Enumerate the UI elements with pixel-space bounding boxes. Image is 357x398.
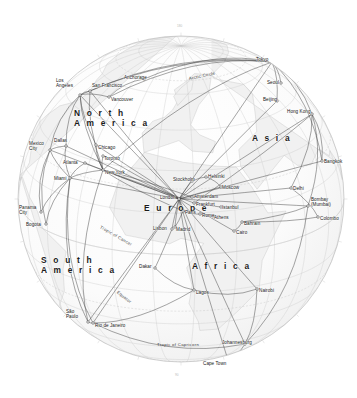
hub-marker-colombo [317, 216, 320, 219]
city-label-hong-kong: Hong Kong [287, 110, 311, 115]
city-label-dallas: Dallas [54, 139, 67, 144]
city-label-cape-town: Cape Town [203, 362, 226, 367]
city-label-line: Beijing [263, 98, 277, 103]
city-label-madrid: Madrid [176, 228, 190, 233]
continent-label-line: A m e r i c a [41, 265, 116, 275]
city-label-line: New York [105, 171, 125, 176]
hub-marker-vancouver [108, 96, 111, 99]
city-label-line: Amsterdam [194, 195, 218, 200]
city-label-stockholm: Stockholm [173, 178, 195, 183]
city-label-moscow: Moscow [222, 186, 239, 191]
hub-marker-cairo [233, 230, 236, 233]
city-label-line: Athens [214, 216, 229, 221]
city-label-line: Vancouver [111, 98, 133, 103]
hub-marker-panama-city [40, 211, 43, 214]
city-label-rome: Rome [202, 214, 215, 219]
city-label-line: Anchorage [124, 76, 147, 81]
hub-marker-nairobi [256, 288, 259, 291]
city-label-colombo: Colombo [320, 217, 339, 222]
continent-label-line: A m e r i c a [74, 118, 149, 128]
city-label-line: City [29, 147, 44, 152]
city-label-line: Bahrain [244, 222, 260, 227]
continent-label-south-america: S o u t hA m e r i c a [41, 255, 116, 275]
city-label-line: (Mumbai) [311, 203, 331, 208]
city-label-sao-paulo: SãoPaulo [66, 310, 78, 319]
city-label-line: Johannesburg [222, 341, 252, 346]
city-label-line: Cairo [236, 231, 247, 236]
city-label-line: Rome [202, 214, 215, 219]
city-label-line: Helsinki [208, 175, 225, 180]
city-label-nairobi: Nairobi [259, 289, 274, 294]
hub-marker-cape-town [227, 359, 230, 362]
hub-marker-rome [199, 213, 202, 216]
city-label-paris: Paris [185, 211, 196, 216]
city-label-johannesburg: Johannesburg [222, 341, 252, 346]
city-label-line: Dakar [139, 265, 152, 270]
hub-marker-chicago [95, 144, 98, 147]
city-label-line: Istanbul [222, 206, 239, 211]
continent-label-line: A f r i c a [192, 262, 251, 271]
city-label-delhi: Delhi [293, 187, 304, 192]
hub-marker-mexico-city [49, 149, 52, 152]
city-label-line: Toronto [104, 157, 120, 162]
city-label-line: Paris [185, 211, 196, 216]
city-label-line: Dallas [54, 139, 67, 144]
city-label-vancouver: Vancouver [111, 98, 133, 103]
city-label-line: Angeles [56, 84, 73, 89]
city-label-line: London [160, 196, 176, 201]
globe-graphic [0, 0, 357, 398]
city-label-bangkok: Bangkok [324, 160, 342, 165]
city-label-line: Seoul [267, 81, 279, 86]
city-label-bahrain: Bahrain [244, 222, 260, 227]
city-label-seoul: Seoul [267, 81, 279, 86]
globe-route-map: Arctic CircleTropic of CancerEquatorTrop… [0, 0, 357, 398]
city-label-line: Atlanta [63, 161, 78, 166]
city-label-atlanta: Atlanta [63, 161, 78, 166]
city-label-mexico-city: MexicoCity [29, 142, 44, 151]
city-label-line: Colombo [320, 217, 339, 222]
continent-label-africa: A f r i c a [192, 262, 251, 271]
city-label-line: Bogota [26, 223, 41, 228]
city-label-line: Frankfurt [196, 203, 215, 208]
hub-marker-rio-de-janeiro [92, 322, 95, 325]
hub-marker-san-francisco [89, 90, 92, 93]
city-label-line: Moscow [222, 186, 239, 191]
city-label-line: Stockholm [173, 178, 195, 183]
city-label-rio-de-janeiro: Rio de Janeiro [95, 324, 125, 329]
city-label-line: Bangkok [324, 160, 342, 165]
city-label-dakar: Dakar [139, 265, 152, 270]
hub-marker-helsinki [205, 176, 208, 179]
city-label-line: City [19, 211, 36, 216]
continent-label-line: S o u t h [41, 255, 116, 265]
city-label-line: Tokyo [256, 58, 268, 63]
city-label-amsterdam: Amsterdam [194, 195, 218, 200]
city-label-line: Nairobi [259, 289, 274, 294]
graticule-tick-label-180: 180 [177, 25, 182, 28]
hub-marker-london [178, 198, 181, 201]
city-label-anchorage: Anchorage [124, 76, 147, 81]
city-label-lagos: Lagos [196, 291, 209, 296]
hub-marker-lisbon [171, 228, 174, 231]
continent-label-asia: A s i a [252, 134, 292, 143]
city-label-line: Paulo [66, 315, 78, 320]
city-label-bombay-mumbai: Bombay(Mumbai) [311, 198, 331, 207]
continent-label-north-america: N o r t hA m e r i c a [74, 108, 149, 128]
city-label-cairo: Cairo [236, 231, 247, 236]
city-label-bogota: Bogota [26, 223, 41, 228]
city-label-london: London [160, 196, 176, 201]
hub-marker-dakar [154, 267, 157, 270]
city-label-helsinki: Helsinki [208, 175, 225, 180]
hub-marker-bangkok [321, 160, 324, 163]
city-label-line: San Francisco [92, 84, 122, 89]
city-label-line: Rio de Janeiro [95, 324, 125, 329]
city-label-line: Delhi [293, 187, 304, 192]
hub-marker-atlanta [84, 162, 87, 165]
city-label-san-francisco: San Francisco [92, 84, 122, 89]
city-label-tokyo: Tokyo [256, 58, 268, 63]
graticule-tick-label-90: 90 [175, 374, 178, 377]
city-label-new-york: New York [105, 171, 125, 176]
city-label-los-angeles: LosAngeles [56, 79, 73, 88]
hub-marker-bombay-mumbai [307, 205, 310, 208]
hub-marker-hong-kong [311, 113, 314, 116]
city-label-toronto: Toronto [104, 157, 120, 162]
